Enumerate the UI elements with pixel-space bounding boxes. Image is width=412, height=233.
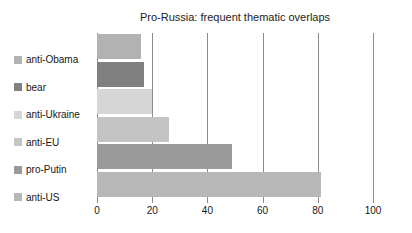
tick-label-100: 100 <box>365 205 382 217</box>
bar-anti-ukraine[interactable] <box>97 89 152 114</box>
bar-chart: Pro-Russia: frequent thematic overlaps a… <box>0 0 412 233</box>
legend-item-anti-ukraine[interactable]: anti-Ukraine <box>14 102 80 127</box>
bar-anti-us[interactable] <box>97 172 321 197</box>
legend-swatch-icon <box>14 166 22 174</box>
chart-legend: anti-Obamabearanti-Ukraineanti-EUpro-Put… <box>14 47 96 198</box>
legend-swatch-icon <box>14 83 22 91</box>
tick-mark-0 <box>97 198 98 203</box>
legend-item-label: anti-EU <box>26 137 59 148</box>
chart-title: Pro-Russia: frequent thematic overlaps <box>97 11 373 24</box>
legend-swatch-icon <box>14 138 22 146</box>
bar-anti-obama[interactable] <box>97 34 141 59</box>
bar-anti-eu[interactable] <box>97 117 169 142</box>
legend-item-anti-obama[interactable]: anti-Obama <box>14 47 78 72</box>
tick-mark-20 <box>152 198 153 203</box>
legend-item-anti-us[interactable]: anti-US <box>14 185 59 210</box>
legend-item-pro-putin[interactable]: pro-Putin <box>14 157 67 182</box>
tick-mark-60 <box>263 198 264 203</box>
bar-bear[interactable] <box>97 62 144 87</box>
legend-item-label: bear <box>26 82 46 93</box>
tick-mark-80 <box>318 198 319 203</box>
tick-label-80: 80 <box>312 205 323 217</box>
legend-swatch-icon <box>14 56 22 64</box>
tick-label-60: 60 <box>257 205 268 217</box>
legend-item-label: anti-US <box>26 192 59 203</box>
legend-item-label: anti-Ukraine <box>26 109 80 120</box>
tick-mark-100 <box>373 198 374 203</box>
tick-mark-40 <box>207 198 208 203</box>
legend-swatch-icon <box>14 111 22 119</box>
tick-label-0: 0 <box>94 205 100 217</box>
tick-label-40: 40 <box>202 205 213 217</box>
legend-item-anti-eu[interactable]: anti-EU <box>14 130 59 155</box>
plot-area <box>97 33 373 198</box>
gridline-100 <box>373 33 374 198</box>
legend-swatch-icon <box>14 193 22 201</box>
x-axis-ticks: 020406080100 <box>97 198 373 226</box>
tick-label-20: 20 <box>147 205 158 217</box>
legend-item-label: anti-Obama <box>26 54 78 65</box>
bar-pro-putin[interactable] <box>97 144 232 169</box>
legend-item-bear[interactable]: bear <box>14 75 46 100</box>
legend-item-label: pro-Putin <box>26 164 67 175</box>
